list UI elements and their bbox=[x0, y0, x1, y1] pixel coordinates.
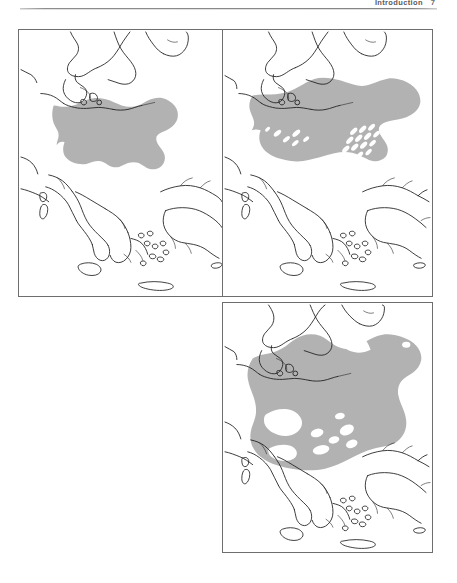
coastline-layer-b bbox=[225, 32, 430, 290]
header-title: Introduction bbox=[375, 0, 423, 7]
distribution-range-a bbox=[52, 98, 178, 169]
distribution-range-b bbox=[249, 78, 420, 162]
map-panel-a bbox=[18, 29, 223, 297]
running-header: Introduction 7 bbox=[0, 0, 457, 7]
header-page-number: 7 bbox=[431, 0, 435, 7]
map-panel-b bbox=[222, 29, 433, 297]
map-svg-c bbox=[223, 303, 432, 552]
map-svg-a bbox=[19, 30, 222, 296]
map-panel-c bbox=[222, 302, 433, 553]
header-rule bbox=[20, 8, 437, 9]
map-svg-b bbox=[223, 30, 432, 296]
book-page: Introduction 7 bbox=[0, 0, 457, 583]
